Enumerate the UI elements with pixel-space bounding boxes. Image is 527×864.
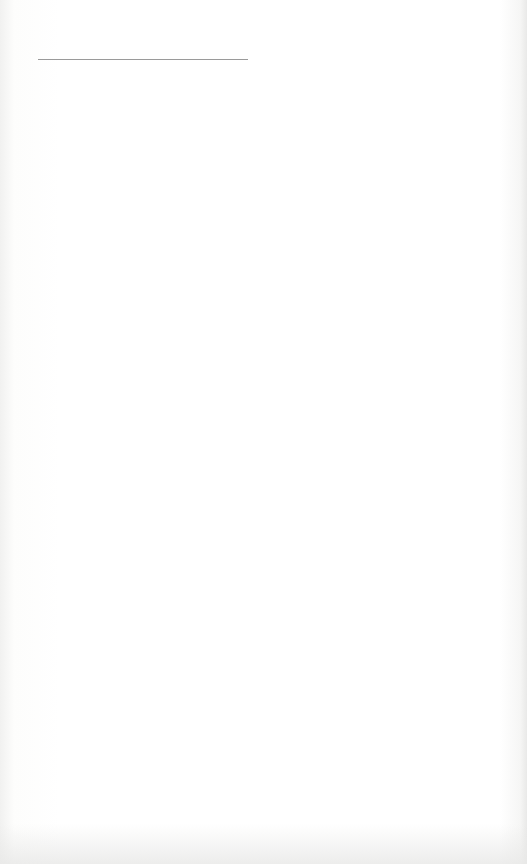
paper-shadow — [0, 824, 527, 864]
header-name-line — [38, 59, 248, 60]
paper-sheet — [0, 0, 527, 864]
